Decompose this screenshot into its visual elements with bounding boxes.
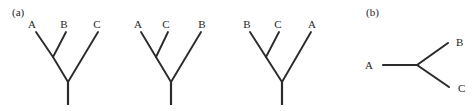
tree-2-branch-b [171, 32, 201, 82]
tree-3-branch-a [282, 32, 311, 82]
tree-3-leaf-label-c: C [274, 18, 281, 30]
unrooted-branch-b [417, 43, 448, 65]
rooted-tree-1: A B C [28, 18, 101, 105]
unrooted-leaf-label-b: B [456, 36, 463, 48]
unrooted-leaf-label-a: A [365, 59, 373, 71]
tree-1-internal-branch [53, 57, 68, 82]
phylogenetic-tree-figure: (a) (b) A B C A C B [0, 0, 474, 111]
tree-2-branch-a [141, 32, 156, 57]
tree-3-branch-c [266, 32, 279, 57]
tree-1-branch-c [68, 32, 98, 82]
tree-3-leaf-label-b: B [243, 18, 250, 30]
tree-1-branch-a [36, 32, 53, 57]
panel-label-a: (a) [12, 6, 25, 19]
figure-canvas: (a) (b) A B C A C B [0, 0, 474, 111]
tree-1-leaf-label-a: A [28, 18, 36, 30]
tree-1-leaf-label-c: C [93, 18, 100, 30]
tree-2-leaf-label-c: C [162, 18, 169, 30]
tree-2-branch-c [156, 32, 168, 57]
rooted-tree-3: B C A [243, 18, 316, 105]
tree-3-branch-b [250, 32, 266, 57]
tree-1-leaf-label-b: B [60, 18, 67, 30]
tree-2-leaf-label-a: A [134, 18, 142, 30]
unrooted-leaf-label-c: C [458, 82, 465, 94]
unrooted-branch-c [417, 65, 449, 87]
unrooted-tree: A B C [365, 36, 465, 94]
tree-2-leaf-label-b: B [198, 18, 205, 30]
tree-3-internal-branch [266, 57, 282, 82]
tree-2-internal-branch [156, 57, 171, 82]
rooted-tree-2: A C B [134, 18, 206, 105]
tree-3-leaf-label-a: A [308, 18, 316, 30]
tree-1-branch-b [53, 32, 66, 57]
panel-label-b: (b) [366, 6, 379, 19]
